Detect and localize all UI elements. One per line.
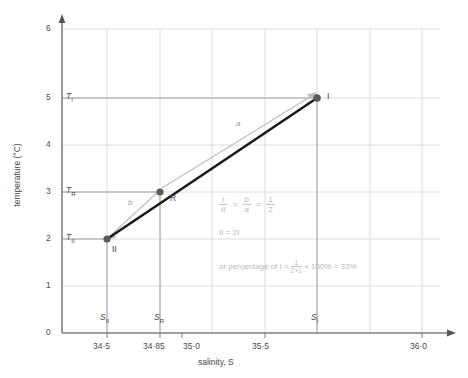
- x-tick-label-35-5: 35·5: [252, 341, 269, 351]
- annotation-frac-i-over-ii: I II: [219, 195, 227, 214]
- y-tick-label-5: 5: [46, 92, 51, 102]
- segment-b-arrow: [106, 190, 160, 240]
- y-tick-label-2: 2: [46, 233, 51, 243]
- y-point-label-tr: TR: [66, 185, 76, 197]
- x-point-label-sr: SR: [154, 312, 164, 324]
- y-tick-label-0: 0: [46, 327, 51, 337]
- x-point-label-sii: SII: [100, 312, 109, 324]
- annotation-frac-one-num: 1: [266, 195, 274, 205]
- annotation-frac-a-den: a: [243, 205, 251, 214]
- horizontal-gridlines: [62, 29, 440, 286]
- annotation-frac-b-over-a: b a: [243, 195, 251, 214]
- annotation-eq-sign-1: =: [233, 200, 238, 209]
- annotation-equation-3: or percentage of I = 1 2+1 × 100% = 33%: [219, 259, 357, 274]
- annotation-line3-mid: × 100% =: [304, 262, 338, 271]
- x-tick-label-36-0: 36·0: [410, 341, 427, 351]
- x-point-label-si: SI: [311, 312, 318, 324]
- data-point-ii: [103, 235, 110, 242]
- annotation-frac-i-den: II: [219, 205, 227, 214]
- y-axis: [59, 14, 66, 333]
- annotation-frac-two-den: 2: [266, 205, 274, 214]
- chart-container: 6 5 4 3 2 1 0 TI TR TII SII SR SI 34·5 3…: [0, 0, 468, 378]
- data-point-r: [156, 188, 163, 195]
- x-point-label-sr-sub: R: [160, 317, 164, 324]
- y-axis-title: temperature (°C): [12, 125, 22, 225]
- annotation-frac-i-num: I: [219, 195, 227, 205]
- y-point-label-ti: TI: [66, 91, 73, 103]
- point-label-r: R: [170, 193, 176, 203]
- vertical-gridlines: [107, 29, 422, 333]
- x-point-label-si-sub: I: [317, 317, 319, 324]
- y-tick-label-4: 4: [46, 139, 51, 149]
- annotation-line3-fraction: 1 2+1: [291, 259, 302, 274]
- y-point-label-ti-sub: I: [71, 96, 73, 103]
- annotation-line3-result: 33%: [341, 262, 357, 271]
- x-axis-title: salinity, S: [198, 357, 234, 367]
- x-tick-label-34-85: 34·85: [143, 341, 165, 351]
- segment-a-arrow: [162, 92, 317, 188]
- annotation-eq-sign-2: =: [256, 200, 261, 209]
- annotation-frac-one-over-two: 1 2: [266, 195, 274, 214]
- x-point-label-sii-sub: II: [106, 317, 109, 324]
- x-axis: [62, 330, 456, 337]
- y-point-label-tr-sub: R: [71, 190, 75, 197]
- point-label-ii: II: [112, 244, 117, 254]
- y-tick-label-6: 6: [46, 23, 51, 33]
- data-point-i: [313, 94, 321, 102]
- segment-label-a: a: [236, 119, 240, 128]
- y-point-label-tii: TII: [66, 232, 75, 244]
- annotation-line3-prefix: or percentage of I =: [219, 262, 289, 271]
- x-tick-label-34-5: 34·5: [93, 341, 110, 351]
- annotation-frac-b-num: b: [243, 195, 251, 205]
- y-tick-label-1: 1: [46, 280, 51, 290]
- point-leader-lines: [62, 98, 317, 333]
- x-tick-label-35-0: 35·0: [183, 341, 200, 351]
- y-point-label-tii-sub: II: [71, 237, 74, 244]
- annotation-line3-frac-num: 1: [291, 259, 302, 267]
- annotation-equation-2: II = 2I: [219, 229, 239, 237]
- segment-label-b: b: [128, 198, 132, 207]
- annotation-equation-1: I II = b a = 1 2: [219, 195, 275, 214]
- annotation-line3-frac-den: 2+1: [291, 267, 302, 274]
- point-label-i: I: [327, 91, 329, 101]
- y-tick-label-3: 3: [46, 186, 51, 196]
